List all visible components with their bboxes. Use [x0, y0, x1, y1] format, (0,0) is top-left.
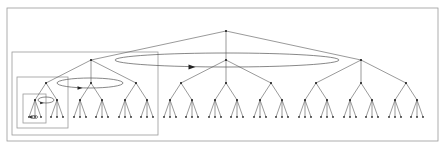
leaf-node: [118, 116, 120, 118]
leaf-node: [304, 116, 306, 118]
tree-diagram: [0, 0, 445, 149]
tree-node: [169, 99, 171, 101]
tree-edge: [226, 31, 361, 60]
tree-edges: [29, 31, 423, 117]
leaf-node: [140, 116, 142, 118]
tree-edge: [372, 100, 378, 117]
leaf-node: [298, 116, 300, 118]
tree-edge: [327, 100, 333, 117]
leaf-node: [275, 116, 277, 118]
tree-node: [34, 99, 36, 101]
arrowhead-icon: [40, 102, 44, 105]
leaf-node: [208, 116, 210, 118]
leaf-node: [349, 116, 351, 118]
tree-edge: [102, 100, 108, 117]
tree-node: [180, 82, 182, 84]
leaf-node: [62, 116, 64, 118]
tree-node: [101, 99, 103, 101]
tree-edge: [164, 100, 170, 117]
tree-edge: [125, 100, 131, 117]
leaf-node: [152, 116, 154, 118]
leaf-node: [230, 116, 232, 118]
leaf-node: [365, 116, 367, 118]
tree-edge: [29, 100, 35, 117]
tree-node: [79, 99, 81, 101]
tree-node: [405, 82, 407, 84]
loop-ellipse: [57, 78, 123, 88]
leaf-node: [214, 116, 216, 118]
tree-edge: [57, 100, 63, 117]
leaf-node: [163, 116, 165, 118]
tree-edge: [389, 100, 395, 117]
tree-node: [360, 59, 362, 61]
tree-node: [236, 99, 238, 101]
tree-edge: [125, 83, 136, 100]
tree-node: [360, 82, 362, 84]
tree-edge: [321, 100, 327, 117]
leaf-node: [343, 116, 345, 118]
tree-edge: [395, 83, 406, 100]
tree-edge: [305, 83, 316, 100]
tree-node: [259, 99, 261, 101]
leaf-node: [242, 116, 244, 118]
leaf-node: [73, 116, 75, 118]
leaf-node: [107, 116, 109, 118]
tree-node: [214, 99, 216, 101]
leaf-node: [175, 116, 177, 118]
tree-edge: [361, 83, 372, 100]
tree-node: [326, 99, 328, 101]
tree-node: [225, 59, 227, 61]
large-box: [12, 52, 158, 135]
tree-edge: [226, 60, 271, 83]
leaf-node: [28, 116, 30, 118]
leaf-node: [326, 116, 328, 118]
tree-edge: [80, 83, 91, 100]
tree-edge: [254, 100, 260, 117]
tree-edge: [417, 100, 423, 117]
tree-node: [146, 99, 148, 101]
leaf-node: [355, 116, 357, 118]
tree-edge: [215, 83, 226, 100]
tree-edge: [237, 100, 243, 117]
tree-edge: [231, 100, 237, 117]
leaf-node: [85, 116, 87, 118]
tree-node: [90, 82, 92, 84]
leaf-node: [416, 116, 418, 118]
tree-edge: [350, 100, 356, 117]
arrowhead-icon: [78, 86, 83, 90]
tree-edge: [276, 100, 282, 117]
tree-node: [270, 82, 272, 84]
loop-ellipse: [115, 53, 339, 67]
leaf-node: [34, 116, 36, 118]
tree-node: [90, 59, 92, 61]
tree-node: [394, 99, 396, 101]
tree-node: [349, 99, 351, 101]
leaf-node: [422, 116, 424, 118]
leaf-node: [56, 116, 58, 118]
leaf-node: [320, 116, 322, 118]
leaf-node: [265, 116, 267, 118]
tree-node: [416, 99, 418, 101]
tree-edge: [411, 100, 417, 117]
leaf-node: [197, 116, 199, 118]
leaf-node: [332, 116, 334, 118]
loop-arrows: [30, 53, 339, 119]
tree-node: [315, 82, 317, 84]
leaf-node: [191, 116, 193, 118]
tree-edge: [260, 100, 266, 117]
tree-node: [225, 30, 227, 32]
tree-node: [304, 99, 306, 101]
tree-edge: [181, 83, 192, 100]
tree-edge: [305, 100, 311, 117]
leaf-node: [259, 116, 261, 118]
tree-edge: [316, 83, 327, 100]
leaf-node: [281, 116, 283, 118]
leaf-node: [50, 116, 52, 118]
arrowhead-icon: [30, 116, 34, 119]
tree-edge: [361, 60, 406, 83]
tree-edge: [91, 31, 226, 60]
tree-edge: [141, 100, 147, 117]
arrowhead-icon: [189, 65, 196, 70]
tree-node: [135, 82, 137, 84]
leaf-node: [310, 116, 312, 118]
